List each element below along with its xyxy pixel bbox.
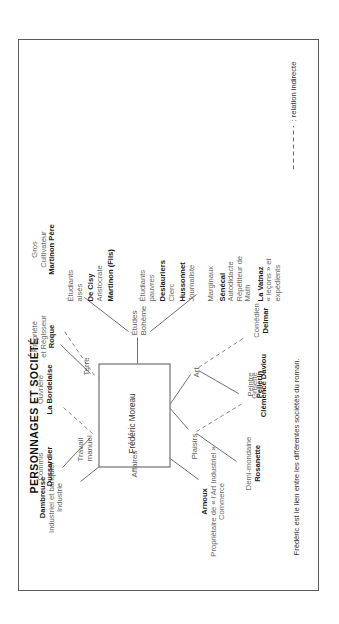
group-deslauriers-sub: Clerc	[167, 209, 176, 301]
group-etudiants-aises: Étudiants aisés De Cisy Aristocrate Mart…	[66, 209, 115, 301]
group-deslauriers-name: Deslauriers	[158, 209, 167, 301]
diagram-canvas: Frédéric Moreau PERSONNAGES ET SOCIÉTÉ A…	[20, 41, 317, 589]
group-roque-name: Roque	[47, 297, 56, 375]
group-martinon-pere-role: Gros Cultivateur	[30, 205, 47, 293]
group-de-cisy-name: De Cisy	[86, 209, 95, 301]
group-arnoux: Arnoux Propriétaire de « l'Art Industrie…	[200, 421, 226, 581]
group-etudiants-aises-role: Étudiants aisés	[66, 209, 83, 301]
branch-label-etudes-boheme: Études Bohème	[130, 305, 148, 335]
branch-label-travail-manuel: Travail manuel	[76, 435, 94, 461]
group-hussonnet-sub: Journaliste	[187, 209, 196, 301]
group-dussardier: Commis Dussardier	[36, 431, 53, 501]
group-de-cisy-sub: Aristocrate	[95, 209, 104, 301]
group-pellerin-name: Pellerin	[255, 355, 264, 413]
group-etudiants-pauvres-role: Étudiants pauvres	[138, 209, 155, 301]
diagram-frame: Frédéric Moreau PERSONNAGES ET SOCIÉTÉ A…	[18, 39, 319, 591]
group-hussonnet-name: Hussonnet	[178, 209, 187, 301]
group-martinon-pere: Gros Cultivateur Martinon Père	[30, 205, 56, 293]
connector-lines	[20, 41, 317, 589]
page-canvas: Frédéric Moreau PERSONNAGES ET SOCIÉTÉ A…	[0, 0, 339, 624]
group-etudiants-pauvres: Étudiants pauvres Deslauriers Clerc Huss…	[138, 209, 195, 301]
legend-label: : relation indirecte	[288, 61, 297, 121]
group-marginaux-role: Marginaux	[206, 205, 215, 301]
branch-label-plaisirs: Plaisirs	[190, 433, 199, 459]
group-pellerin-role: Peintre	[246, 355, 255, 413]
legend-dashed-line-icon	[289, 125, 297, 169]
group-dussardier-name: Dussardier	[45, 431, 54, 501]
group-dussardier-role: Commis	[36, 431, 45, 501]
center-node-label: Frédéric Moreau	[127, 393, 136, 453]
group-senecal-sub: Autodidacte Répétiteur de Math	[226, 205, 252, 301]
branch-label-terre: Terre	[82, 357, 91, 375]
branch-label-art: Art	[192, 367, 201, 377]
legend: : relation indirecte	[288, 61, 297, 169]
group-delmar: Comédien Delmar	[252, 289, 269, 351]
group-la-vatnaz-sub: « leçons » et expédients	[264, 205, 281, 301]
group-marginaux: Marginaux Sénécal Autodidacte Répétiteur…	[206, 205, 281, 301]
group-arnoux-name: Arnoux	[200, 421, 209, 581]
group-dambreuse-domain: Industrie	[55, 437, 64, 557]
diagram-caption: Frédéric est le lien entre les différent…	[292, 358, 301, 555]
group-delmar-role: Comédien	[252, 289, 261, 351]
group-pellerin: Peintre Pellerin	[246, 355, 263, 413]
rotated-diagram-layer: Frédéric Moreau PERSONNAGES ET SOCIÉTÉ A…	[20, 41, 317, 589]
group-martinon-fils-name: Martinon (Fils)	[106, 209, 115, 301]
branch-label-affaires: Affaires	[130, 450, 139, 477]
group-arnoux-domain: Commerce	[217, 421, 226, 581]
group-roque-role: Propriété et Régisseur	[30, 297, 47, 375]
group-delmar-name: Delmar	[261, 289, 270, 351]
group-roque: Propriété et Régisseur Roque	[30, 297, 56, 375]
group-martinon-pere-name: Martinon Père	[47, 205, 56, 293]
